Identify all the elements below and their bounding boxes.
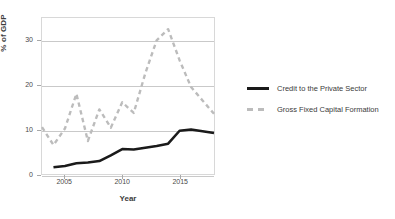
y-axis-title: % of GDP xyxy=(0,0,8,78)
x-tick-label-2015: 2015 xyxy=(162,178,198,185)
legend-item-gfcf: Gross Fixed Capital Formation xyxy=(247,105,379,114)
chart-figure: % of GDP 0102030 200520102015 Year Credi… xyxy=(0,0,395,219)
x-tick-label-2010: 2010 xyxy=(104,178,140,185)
legend-label-credit: Credit to the Private Sector xyxy=(277,84,367,93)
solid-line-swatch xyxy=(247,87,269,90)
dashed-line-swatch xyxy=(247,108,269,111)
chart-legend: Credit to the Private Sector Gross Fixed… xyxy=(247,84,379,114)
series-line-credit xyxy=(53,129,214,167)
y-tick-label-20: 20 xyxy=(11,81,33,88)
series-line-gfcf xyxy=(42,29,214,145)
x-tick-label-2005: 2005 xyxy=(46,178,82,185)
x-tick-mark-2005 xyxy=(64,175,65,179)
gridline-0 xyxy=(42,176,214,177)
legend-label-gfcf: Gross Fixed Capital Formation xyxy=(277,105,379,114)
y-tick-mark-0 xyxy=(37,175,41,176)
series-lines xyxy=(42,18,214,174)
x-tick-mark-2015 xyxy=(180,175,181,179)
x-tick-mark-2010 xyxy=(122,175,123,179)
y-tick-label-0: 0 xyxy=(11,171,33,178)
legend-item-credit: Credit to the Private Sector xyxy=(247,84,379,93)
y-tick-label-30: 30 xyxy=(11,36,33,43)
y-tick-label-10: 10 xyxy=(11,126,33,133)
x-axis-title: Year xyxy=(41,194,215,203)
plot-area xyxy=(41,17,215,175)
